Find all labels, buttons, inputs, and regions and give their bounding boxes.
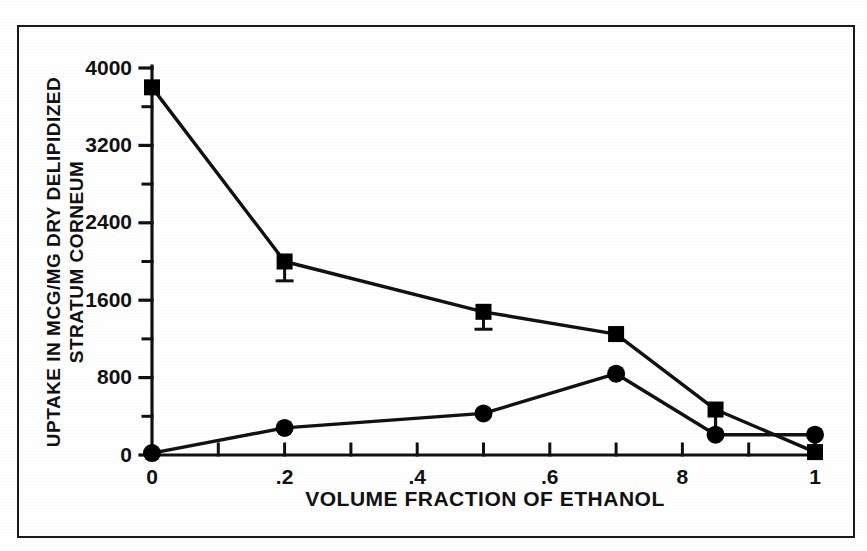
- x-axis-tick-label: .2: [276, 465, 294, 488]
- x-axis-tick-label: .4: [408, 465, 426, 488]
- y-axis-ticks: [140, 68, 152, 455]
- data-series-layer: [143, 79, 824, 462]
- data-point-square: [476, 304, 492, 320]
- x-axis-title: VOLUME FRACTION OF ETHANOL: [305, 487, 664, 510]
- x-axis-tick-label: .6: [541, 465, 559, 488]
- figure: 08001600240032004000 0.2.4.681 VOLUME FR…: [0, 0, 867, 551]
- axes: [152, 66, 818, 455]
- x-axis-tick-label: 0: [146, 465, 158, 488]
- data-point-circle: [607, 365, 625, 383]
- y-axis-tick-label: 800: [97, 365, 132, 388]
- data-point-square: [708, 402, 724, 418]
- line-chart: 08001600240032004000 0.2.4.681 VOLUME FR…: [0, 0, 867, 551]
- data-point-square: [608, 326, 624, 342]
- y-axis-tick-label: 3200: [85, 133, 132, 156]
- data-point-circle: [707, 426, 725, 444]
- data-point-square: [144, 79, 160, 95]
- data-point-square: [277, 254, 293, 270]
- x-axis-tick-labels: 0.2.4.681: [146, 465, 821, 488]
- y-axis-title-line-1: UPTAKE IN MCG/MG DRY DELIPIDIZED: [43, 77, 64, 447]
- x-axis-ticks: [218, 444, 815, 455]
- x-axis-tick-label: 1: [809, 465, 821, 488]
- series-square-series: [144, 79, 823, 460]
- data-point-circle: [276, 419, 294, 437]
- data-point-circle: [143, 444, 161, 462]
- y-axis-title-line-2: STRATUM CORNEUM: [66, 161, 87, 363]
- x-axis-tick-label: 8: [677, 465, 689, 488]
- y-axis-tick-labels: 08001600240032004000: [85, 56, 132, 466]
- data-point-square: [807, 444, 823, 460]
- y-axis-tick-label: 2400: [85, 210, 132, 233]
- series-line: [152, 87, 815, 452]
- y-axis-tick-label: 1600: [85, 288, 132, 311]
- data-point-circle: [806, 426, 824, 444]
- y-axis-tick-label: 4000: [85, 56, 132, 79]
- y-axis-tick-label: 0: [120, 443, 132, 466]
- data-point-circle: [475, 404, 493, 422]
